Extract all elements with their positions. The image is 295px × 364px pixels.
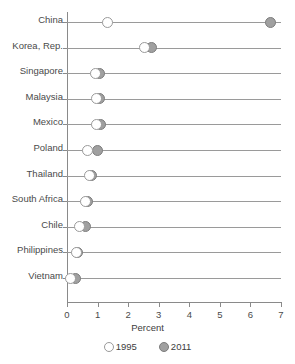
legend-label-2011: 2011: [171, 341, 191, 352]
connector-line: [67, 176, 281, 177]
data-point-1995[interactable]: [90, 68, 101, 79]
x-axis-title: Percent: [0, 322, 295, 333]
x-tick: [98, 302, 99, 307]
x-tick: [67, 302, 68, 307]
x-tick-label: 1: [88, 309, 108, 320]
category-label: Thailand: [0, 168, 63, 179]
x-tick-label: 0: [57, 309, 77, 320]
connector-line: [67, 252, 281, 253]
category-label: Malaysia: [0, 91, 63, 102]
x-tick-label: 3: [149, 309, 169, 320]
connector-line: [67, 201, 281, 202]
x-tick-label: 5: [210, 309, 230, 320]
category-label: Mexico: [0, 116, 63, 127]
open-circle-icon: [104, 342, 114, 352]
x-tick-label: 4: [179, 309, 199, 320]
category-label: Singapore: [0, 65, 63, 76]
x-tick-label: 6: [240, 309, 260, 320]
connector-line: [67, 22, 281, 23]
category-label: South Africa: [0, 193, 63, 204]
data-point-1995[interactable]: [91, 119, 102, 130]
x-tick: [281, 302, 282, 307]
data-point-1995[interactable]: [82, 145, 93, 156]
category-label: China: [0, 14, 63, 25]
category-label: Philippines: [0, 244, 63, 255]
data-point-1995[interactable]: [84, 170, 95, 181]
x-tick: [189, 302, 190, 307]
data-point-1995[interactable]: [65, 273, 76, 284]
x-axis-ticks: 01234567: [67, 302, 281, 308]
data-point-1995[interactable]: [102, 17, 113, 28]
x-tick: [128, 302, 129, 307]
y-axis-line: [67, 12, 68, 302]
legend-item-1995[interactable]: 1995: [104, 341, 137, 352]
x-tick-label: 7: [271, 309, 291, 320]
connector-line: [67, 278, 281, 279]
x-tick: [220, 302, 221, 307]
dumbbell-chart: ChinaKorea, Rep.SingaporeMalaysiaMexicoP…: [0, 0, 295, 364]
data-point-2011[interactable]: [92, 145, 103, 156]
x-tick-label: 2: [118, 309, 138, 320]
legend-item-2011[interactable]: 2011: [159, 341, 191, 352]
data-point-2011[interactable]: [265, 17, 276, 28]
data-point-1995[interactable]: [91, 93, 102, 104]
category-label: Chile: [0, 219, 63, 230]
legend: 1995 2011: [0, 341, 295, 352]
data-point-1995[interactable]: [71, 247, 82, 258]
connector-line: [67, 48, 281, 49]
legend-label-1995: 1995: [116, 341, 137, 352]
cropped-title-fragment: [0, 0, 295, 10]
x-tick: [159, 302, 160, 307]
category-label: Korea, Rep.: [0, 40, 63, 51]
category-label: Vietnam: [0, 270, 63, 281]
x-tick: [250, 302, 251, 307]
filled-circle-icon: [159, 342, 169, 352]
plot-area: ChinaKorea, Rep.SingaporeMalaysiaMexicoP…: [67, 12, 281, 302]
connector-line: [67, 227, 281, 228]
category-label: Poland: [0, 142, 63, 153]
